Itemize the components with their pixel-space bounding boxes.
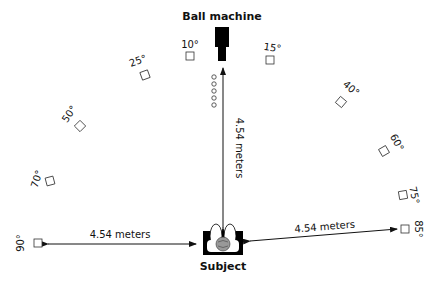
target-70: 70° — [29, 169, 55, 189]
subject-label: Subject — [200, 260, 247, 273]
target-10: 10° — [181, 39, 199, 60]
target-50: 50° — [60, 104, 86, 132]
angle-label-60: 60° — [388, 132, 406, 153]
target-15: 15° — [263, 41, 282, 64]
angle-label-70: 70° — [29, 169, 45, 189]
subject-icon — [203, 224, 243, 255]
angle-label-75: 75° — [407, 185, 421, 205]
target-90: 90° — [15, 234, 42, 252]
angle-label-25: 25° — [128, 53, 148, 69]
left-distance-label: 4.54 meters — [90, 229, 151, 240]
vertical-distance-label: 4.54 meters — [234, 118, 245, 179]
angle-label-85: 85° — [413, 220, 424, 238]
target-40: 40° — [335, 78, 361, 107]
target-25: 25° — [128, 53, 151, 81]
angle-label-90: 90° — [15, 234, 26, 252]
target-85: 85° — [401, 220, 424, 238]
target-60: 60° — [379, 132, 407, 157]
ball-machine-icon — [215, 27, 229, 61]
angle-label-50: 50° — [60, 104, 79, 125]
ball-trajectory — [212, 75, 216, 107]
diagram-canvas: Ball machine 4.54 meters 4.54 meters 4.5… — [0, 0, 440, 287]
ball-machine-label: Ball machine — [182, 10, 261, 23]
angle-label-15: 15° — [263, 41, 282, 54]
angle-label-10: 10° — [181, 39, 199, 50]
angle-label-40: 40° — [341, 78, 362, 98]
right-distance-label: 4.54 meters — [294, 219, 355, 235]
target-75: 75° — [398, 185, 421, 205]
diagram-svg: Ball machine 4.54 meters 4.54 meters 4.5… — [0, 0, 440, 287]
